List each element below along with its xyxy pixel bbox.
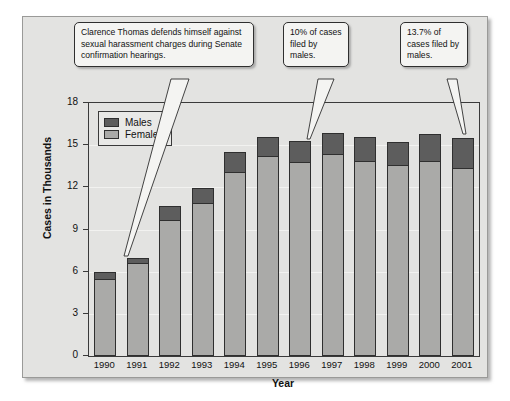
bar-segment-males bbox=[192, 188, 214, 203]
bar-segment-males bbox=[387, 142, 409, 164]
x-axis-tick-label-2001: 2001 bbox=[442, 359, 482, 370]
bar-segment-males bbox=[224, 152, 246, 172]
bar-1994 bbox=[224, 152, 246, 356]
y-axis-tick-label: 6 bbox=[50, 265, 78, 276]
bar-segment-males bbox=[94, 272, 116, 279]
y-axis-tick bbox=[83, 313, 89, 314]
bar-1993 bbox=[192, 188, 214, 356]
legend-swatch-females-icon bbox=[104, 130, 119, 139]
bar-2000 bbox=[419, 134, 441, 356]
bar-segment-females bbox=[224, 172, 246, 356]
y-axis-labels bbox=[49, 17, 81, 401]
bar-segment-males bbox=[322, 133, 344, 154]
y-axis-tick-label: 0 bbox=[50, 349, 78, 360]
x-axis-title: Year bbox=[88, 377, 478, 389]
bar-1998 bbox=[354, 137, 376, 356]
legend-label-males: Males bbox=[125, 117, 152, 128]
y-axis-tick-label: 12 bbox=[50, 180, 78, 191]
y-axis-tick bbox=[83, 355, 89, 356]
bar-2001 bbox=[452, 138, 474, 356]
y-axis-tick-label: 18 bbox=[50, 96, 78, 107]
legend: Males Females bbox=[98, 111, 172, 146]
y-axis-tick-label: 3 bbox=[50, 307, 78, 318]
legend-swatch-males-icon bbox=[104, 118, 119, 127]
y-axis-tick-label: 9 bbox=[50, 223, 78, 234]
bar-1999 bbox=[387, 142, 409, 356]
bar-1997 bbox=[322, 133, 344, 356]
bar-1996 bbox=[289, 141, 311, 356]
bar-segment-females bbox=[452, 168, 474, 356]
y-axis-tick bbox=[83, 229, 89, 230]
bar-segment-males bbox=[159, 206, 181, 220]
y-axis-tick-label: 15 bbox=[50, 138, 78, 149]
chart-panel: Cases in Thousands Year Males Females bbox=[22, 16, 488, 378]
legend-item-females: Females bbox=[104, 129, 163, 140]
bar-1991 bbox=[127, 258, 149, 356]
bar-1992 bbox=[159, 206, 181, 356]
bar-segment-females bbox=[387, 165, 409, 356]
bar-segment-females bbox=[159, 220, 181, 356]
y-axis-tick bbox=[83, 271, 89, 272]
bar-segment-females bbox=[127, 263, 149, 356]
bar-segment-females bbox=[257, 156, 279, 356]
bar-segment-females bbox=[192, 203, 214, 356]
bar-segment-males bbox=[419, 134, 441, 161]
y-axis-tick bbox=[83, 102, 89, 103]
bar-segment-females bbox=[94, 279, 116, 356]
y-axis-tick bbox=[83, 144, 89, 145]
callout-2001-male-share: 13.7% of cases filed by males. bbox=[400, 22, 468, 67]
bar-segment-females bbox=[322, 154, 344, 356]
chart-figure: Cases in Thousands Year Males Females bbox=[0, 0, 510, 401]
callout-1996-male-share: 10% of cases filed by males. bbox=[283, 22, 349, 67]
callout-clarence-thomas: Clarence Thomas defends himself against … bbox=[74, 22, 254, 67]
bar-segment-males bbox=[452, 138, 474, 168]
y-axis-tick bbox=[83, 186, 89, 187]
bar-segment-females bbox=[289, 162, 311, 356]
bar-segment-females bbox=[419, 161, 441, 356]
bar-segment-males bbox=[257, 137, 279, 157]
bar-1990 bbox=[94, 272, 116, 356]
bar-segment-males bbox=[289, 141, 311, 162]
bar-segment-males bbox=[354, 137, 376, 161]
bar-segment-females bbox=[354, 161, 376, 356]
legend-label-females: Females bbox=[125, 129, 163, 140]
bar-1995 bbox=[257, 137, 279, 356]
legend-item-males: Males bbox=[104, 117, 163, 128]
